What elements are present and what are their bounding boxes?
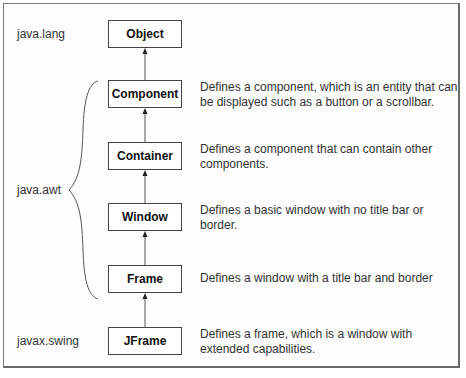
description-jframe: Defines a frame, which is a window with … (200, 327, 460, 357)
description-container: Defines a component that can contain oth… (200, 142, 460, 172)
description-window: Defines a basic window with no title bar… (200, 203, 460, 233)
inheritance-arrows (0, 0, 466, 378)
awt-brace (69, 81, 98, 299)
package-java-lang: java.lang (17, 27, 65, 41)
package-javax-swing: javax.swing (17, 334, 79, 348)
description-component: Defines a component, which is an entity … (200, 80, 460, 110)
package-java-awt: java.awt (17, 183, 61, 197)
class-box-container: Container (108, 142, 182, 170)
class-box-frame: Frame (108, 265, 182, 293)
class-box-component: Component (108, 80, 182, 108)
class-box-window: Window (108, 203, 182, 231)
class-box-object: Object (108, 20, 182, 48)
class-box-jframe: JFrame (108, 327, 182, 355)
description-frame: Defines a window with a title bar and bo… (200, 271, 460, 286)
